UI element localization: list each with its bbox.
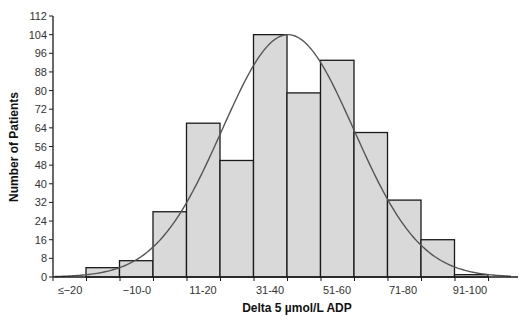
x-axis: ≤−20−10-011-2031-4051-6071-8091-100 bbox=[53, 277, 518, 296]
y-tick-label: 88 bbox=[35, 66, 47, 78]
y-tick-label: 8 bbox=[41, 252, 47, 264]
y-tick-label: 56 bbox=[35, 141, 47, 153]
y-tick-label: 0 bbox=[41, 271, 47, 283]
x-tick-label: 11-20 bbox=[189, 284, 216, 296]
y-tick-label: 112 bbox=[29, 10, 47, 22]
x-tick-label: ≤−20 bbox=[58, 284, 83, 296]
histogram-chart: 081624324048566472808896104112 ≤−20−10-0… bbox=[0, 0, 528, 320]
y-tick-label: 40 bbox=[35, 178, 47, 190]
histogram-bar bbox=[120, 261, 154, 277]
y-tick-label: 72 bbox=[35, 103, 47, 115]
histogram-bar bbox=[220, 160, 254, 277]
histogram-bar bbox=[287, 93, 321, 277]
y-tick-label: 24 bbox=[35, 215, 47, 227]
y-axis-title: Number of Patients bbox=[7, 92, 21, 202]
y-tick-label: 104 bbox=[29, 29, 47, 41]
y-axis: 081624324048566472808896104112 bbox=[29, 10, 53, 283]
y-tick-label: 96 bbox=[35, 47, 47, 59]
bars bbox=[86, 35, 488, 277]
histogram-bar bbox=[153, 212, 187, 277]
x-tick-label: 31-40 bbox=[256, 284, 284, 296]
x-tick-label: 91-100 bbox=[453, 284, 487, 296]
histogram-bar bbox=[354, 133, 388, 277]
histogram-bar bbox=[388, 200, 422, 277]
x-tick-label: 71-80 bbox=[389, 284, 417, 296]
y-tick-label: 80 bbox=[35, 85, 47, 97]
y-tick-label: 32 bbox=[35, 196, 47, 208]
y-tick-label: 64 bbox=[35, 122, 47, 134]
x-tick-label: −10-0 bbox=[123, 284, 151, 296]
x-tick-label: 51-60 bbox=[323, 284, 351, 296]
y-tick-label: 48 bbox=[35, 159, 47, 171]
histogram-bar bbox=[254, 35, 288, 277]
x-axis-title: Delta 5 µmol/L ADP bbox=[242, 301, 352, 315]
y-tick-label: 16 bbox=[35, 234, 47, 246]
